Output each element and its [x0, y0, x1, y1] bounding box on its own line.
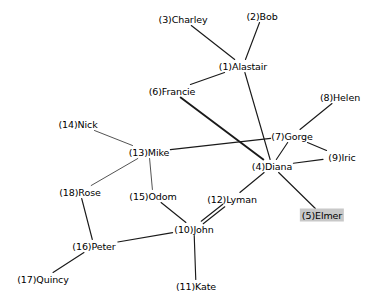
graph-node-nick[interactable]: (14)Nick — [56, 118, 99, 131]
graph-node-lyman[interactable]: (12)Lyman — [205, 193, 259, 206]
graph-edge-mike-odom — [150, 159, 153, 190]
graph-edge-peter-john — [118, 233, 173, 242]
graph-node-alastair[interactable]: (1)Alastair — [217, 60, 269, 73]
edge-layer — [0, 0, 371, 302]
graph-edge-gorge-diana — [276, 143, 287, 160]
graph-node-peter[interactable]: (16)Peter — [70, 240, 117, 253]
graph-edge-alastair-diana — [245, 73, 270, 160]
graph-node-john[interactable]: (10)John — [172, 223, 215, 236]
graph-edge-rose-peter — [82, 199, 93, 240]
graph-node-diana[interactable]: (4)Diana — [250, 160, 294, 173]
graph-edge-helen-gorge — [300, 104, 332, 130]
graph-edge-diana-elmer — [279, 173, 316, 209]
graph-edge-peter-quincy — [53, 253, 84, 273]
graph-node-odom[interactable]: (15)Odom — [127, 190, 178, 203]
graph-edge-nick-mike — [94, 131, 132, 146]
graph-edge-diana-iric — [293, 159, 323, 163]
graph-node-quincy[interactable]: (17)Quincy — [15, 273, 71, 286]
graph-node-iric[interactable]: (9)Iric — [326, 151, 357, 164]
graph-edge-alastair-francie — [190, 73, 224, 85]
graph-edge-charley-alastair — [191, 26, 234, 60]
graph-node-gorge[interactable]: (7)Gorge — [269, 130, 314, 143]
graph-edge-john-kate — [194, 236, 196, 280]
graph-edge-mike-rose — [91, 159, 138, 186]
graph-edge-francie-diana — [181, 98, 264, 160]
graph-node-elmer[interactable]: (5)Elmer — [300, 209, 344, 222]
graph-edge-bob-alastair — [245, 23, 259, 60]
graph-node-kate[interactable]: (11)Kate — [174, 280, 218, 293]
graph-edge-diana-lyman — [240, 173, 264, 193]
graph-node-bob[interactable]: (2)Bob — [244, 10, 279, 23]
graph-edge-gorge-iric — [307, 143, 326, 151]
graph-edge-john-lyman — [203, 207, 225, 224]
graph-node-francie[interactable]: (6)Francie — [147, 85, 198, 98]
network-graph-canvas: (1)Alastair(2)Bob(3)Charley(4)Diana(5)El… — [0, 0, 371, 302]
graph-node-helen[interactable]: (8)Helen — [318, 91, 362, 104]
graph-edge-john-lyman — [201, 204, 223, 221]
graph-node-rose[interactable]: (18)Rose — [57, 186, 102, 199]
graph-node-mike[interactable]: (13)Mike — [127, 146, 172, 159]
graph-node-charley[interactable]: (3)Charley — [157, 13, 210, 26]
graph-edge-gorge-mike — [170, 138, 270, 149]
graph-edge-odom-john — [161, 203, 186, 223]
